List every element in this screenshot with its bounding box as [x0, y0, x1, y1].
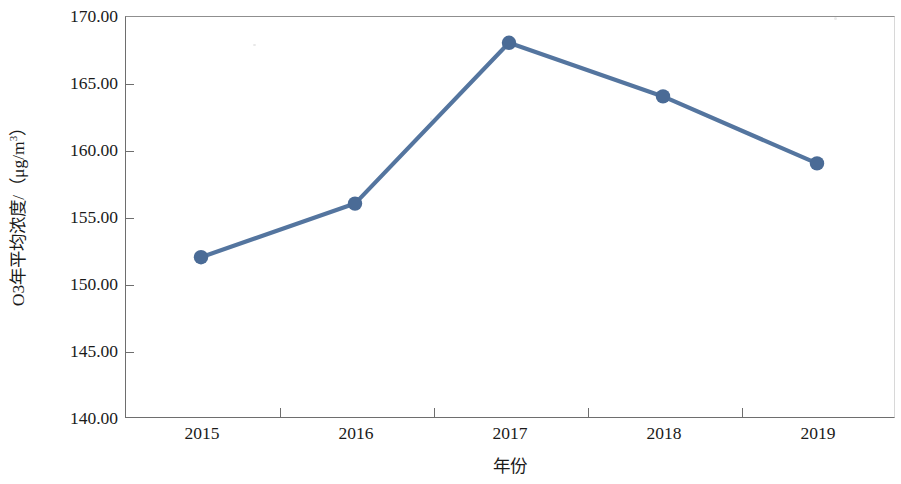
scan-speckle	[253, 44, 256, 46]
y-axis-tick-mark	[126, 84, 134, 85]
data-point-marker[interactable]	[194, 250, 208, 264]
y-axis-tick-label: 160.00	[70, 141, 118, 159]
line-chart-figure: O3年平均浓度/（μg/m3） 140.00145.00150.00155.00…	[0, 0, 901, 484]
y-axis-title-prefix: O3年平均浓度/（μg/m	[9, 141, 29, 306]
y-axis-tick-mark	[126, 352, 134, 353]
scan-speckle	[430, 118, 432, 120]
y-axis-tick-label: 165.00	[70, 74, 118, 92]
x-axis-tick-label: 2018	[647, 422, 682, 444]
x-axis-tick-mark	[434, 408, 435, 417]
y-axis-tick-label: 145.00	[70, 342, 118, 360]
x-axis-tick-labels: 20152016201720182019	[125, 422, 895, 452]
y-axis-tick-mark	[126, 285, 134, 286]
x-axis-tick-label: 2016	[339, 422, 374, 444]
y-axis-tick-label: 150.00	[70, 275, 118, 293]
data-point-marker[interactable]	[348, 196, 362, 210]
y-axis-tick-labels: 140.00145.00150.00155.00160.00165.00170.…	[34, 0, 122, 440]
y-axis-tick-mark	[126, 151, 134, 152]
data-point-marker[interactable]	[810, 156, 824, 170]
y-axis-tick-label: 155.00	[70, 208, 118, 226]
x-axis-tick-label: 2019	[801, 422, 836, 444]
scan-speckle	[834, 17, 837, 20]
x-axis-tick-mark	[742, 408, 743, 417]
x-axis-tick-mark	[280, 408, 281, 417]
x-axis-tick-label: 2015	[185, 422, 220, 444]
y-axis-tick-label: 140.00	[70, 409, 118, 427]
x-axis-title: 年份	[125, 452, 895, 477]
y-axis-tick-label: 170.00	[70, 7, 118, 25]
y-axis-title: O3年平均浓度/（μg/m3）	[0, 0, 34, 424]
data-point-marker[interactable]	[502, 35, 516, 49]
data-series-svg	[124, 16, 894, 418]
data-point-marker[interactable]	[656, 89, 670, 103]
y-axis-tick-mark	[126, 218, 134, 219]
plot-area	[125, 16, 895, 418]
series-line	[201, 43, 817, 257]
y-axis-title-suffix: ）	[9, 118, 29, 135]
x-axis-tick-label: 2017	[493, 422, 528, 444]
x-axis-tick-mark	[588, 408, 589, 417]
